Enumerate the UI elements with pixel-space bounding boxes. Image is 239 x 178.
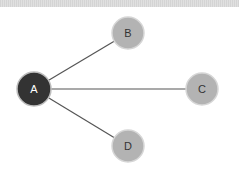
node-d-label: D: [124, 140, 132, 152]
node-c-label: C: [198, 83, 206, 95]
node-d[interactable]: D: [112, 130, 144, 162]
graph-canvas: A B C D: [0, 0, 239, 178]
node-b[interactable]: B: [112, 17, 144, 49]
node-a-label: A: [30, 83, 38, 95]
edges: [34, 33, 202, 146]
node-b-label: B: [124, 27, 131, 39]
node-a[interactable]: A: [17, 72, 51, 106]
node-c[interactable]: C: [186, 73, 218, 105]
